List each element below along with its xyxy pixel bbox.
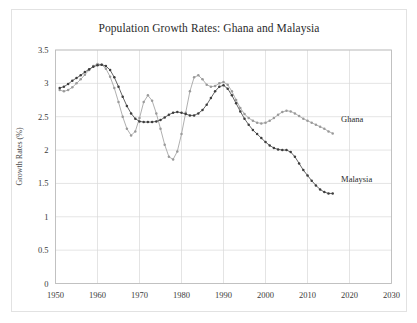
y-tick-label: 1 xyxy=(44,212,48,222)
data-point xyxy=(319,125,322,128)
data-point xyxy=(294,155,297,158)
data-point xyxy=(235,102,238,105)
data-point xyxy=(243,117,246,120)
data-point xyxy=(105,67,108,70)
data-point xyxy=(264,141,267,144)
data-point xyxy=(134,117,137,120)
data-point xyxy=(163,116,166,119)
data-point xyxy=(327,192,330,195)
data-series xyxy=(58,63,334,195)
data-point xyxy=(75,82,78,85)
data-point xyxy=(201,78,204,81)
data-point xyxy=(138,117,141,120)
data-point xyxy=(306,119,309,122)
y-tick-label: 3.5 xyxy=(38,45,49,55)
data-point xyxy=(319,188,322,191)
data-point xyxy=(172,111,175,114)
data-point xyxy=(117,85,120,88)
x-tick-label: 2000 xyxy=(257,290,274,300)
data-point xyxy=(176,150,179,153)
data-point xyxy=(331,192,334,195)
data-point xyxy=(323,127,326,130)
data-point xyxy=(172,158,175,161)
data-point xyxy=(243,113,246,116)
data-point xyxy=(142,121,145,124)
data-point xyxy=(302,117,305,120)
data-point xyxy=(130,134,133,137)
data-point xyxy=(155,112,158,115)
data-point xyxy=(159,127,162,130)
data-point xyxy=(189,114,192,117)
data-point xyxy=(88,68,91,71)
data-point xyxy=(67,89,70,92)
x-axis-ticks: 195019601970198019902000201020202030 xyxy=(47,290,400,300)
series-line xyxy=(60,65,333,194)
data-point xyxy=(268,144,271,147)
y-axis-ticks: 00.511.522.533.5 xyxy=(38,45,49,289)
data-point xyxy=(117,101,120,104)
data-point xyxy=(281,111,284,114)
data-point xyxy=(79,78,82,81)
data-point xyxy=(71,79,74,82)
y-tick-label: 0.5 xyxy=(38,245,49,255)
data-point xyxy=(180,111,183,114)
data-point xyxy=(285,109,288,112)
data-point xyxy=(331,132,334,135)
data-point xyxy=(260,122,263,125)
data-point xyxy=(277,148,280,151)
data-point xyxy=(218,85,221,88)
data-point xyxy=(285,149,288,152)
data-point xyxy=(214,90,217,93)
data-point xyxy=(273,147,276,150)
data-point xyxy=(168,113,171,116)
data-point xyxy=(222,81,225,84)
data-point xyxy=(147,121,150,124)
data-point xyxy=(231,94,234,97)
data-point xyxy=(79,74,82,77)
x-tick-label: 2010 xyxy=(299,290,316,300)
series-ghana xyxy=(58,63,334,161)
data-point xyxy=(184,113,187,116)
data-point xyxy=(134,130,137,133)
data-point xyxy=(155,120,158,123)
data-point xyxy=(71,86,74,89)
data-point xyxy=(142,101,145,104)
data-point xyxy=(159,119,162,122)
y-tick-label: 3 xyxy=(44,78,48,88)
data-point xyxy=(205,103,208,106)
y-tick-label: 2.5 xyxy=(38,112,49,122)
data-point xyxy=(256,121,259,124)
data-point xyxy=(105,65,108,68)
data-point xyxy=(226,83,229,86)
data-point xyxy=(323,191,326,194)
data-point xyxy=(121,95,124,98)
x-tick-label: 2030 xyxy=(383,290,400,300)
data-point xyxy=(310,180,313,183)
series-label-ghana: Ghana xyxy=(341,114,363,124)
data-point xyxy=(256,133,259,136)
data-point xyxy=(84,73,87,76)
data-point xyxy=(327,130,330,133)
data-point xyxy=(100,63,103,66)
data-point xyxy=(289,110,292,113)
data-point xyxy=(75,77,78,80)
data-point xyxy=(189,90,192,93)
data-point xyxy=(281,149,284,152)
data-point xyxy=(222,84,225,87)
data-point xyxy=(264,121,267,124)
data-point xyxy=(252,129,255,132)
data-point xyxy=(310,121,313,124)
data-point xyxy=(193,76,196,79)
data-point xyxy=(315,123,318,126)
data-point xyxy=(92,65,95,68)
data-point xyxy=(247,123,250,126)
data-point xyxy=(176,111,179,114)
data-point xyxy=(201,109,204,112)
data-point xyxy=(126,105,128,108)
data-point xyxy=(289,151,292,154)
data-point xyxy=(113,76,116,79)
data-point xyxy=(231,90,234,93)
data-point xyxy=(205,83,208,86)
data-point xyxy=(109,69,112,72)
data-point xyxy=(193,114,196,117)
